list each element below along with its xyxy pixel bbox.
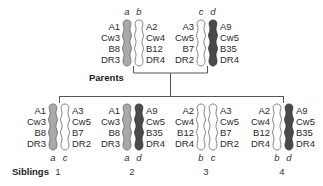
allele: Cw5 — [296, 116, 315, 127]
allele: DR2 — [72, 138, 91, 149]
allele: B7 — [72, 127, 84, 138]
haplotype-label-c: c — [199, 6, 204, 17]
hla-inheritance-diagram: a b A1 Cw3 B8 DR3 A2 Cw4 B12 DR4 c d A3 … — [0, 0, 323, 186]
allele: Cw4 — [175, 116, 194, 127]
allele: Cw5 — [72, 116, 91, 127]
allele: A2 — [182, 105, 194, 116]
chromosome-b — [135, 20, 144, 66]
haplotype-label: b — [198, 152, 203, 163]
allele: Cw3 — [101, 32, 120, 43]
allele: DR4 — [175, 138, 194, 149]
chromosome-a — [49, 104, 58, 150]
sibling-number: 4 — [279, 166, 284, 177]
parent-1: a b A1 Cw3 B8 DR3 A2 Cw4 B12 DR4 — [101, 6, 165, 66]
allele: DR2 — [175, 54, 194, 65]
chromosome-d — [209, 20, 218, 66]
allele: DR4 — [146, 138, 165, 149]
allele: B12 — [146, 43, 163, 54]
haplotype-label-b: b — [136, 6, 141, 17]
allele: DR3 — [101, 138, 120, 149]
haplotype-label: c — [63, 152, 68, 163]
haplotype-label-a: a — [124, 6, 129, 17]
allele: B35 — [220, 43, 237, 54]
allele: Cw4 — [251, 116, 270, 127]
chromosome-c — [61, 104, 70, 150]
parents-label: Parents — [89, 72, 124, 83]
chromosome-c — [197, 20, 206, 66]
allele: A9 — [296, 105, 308, 116]
allele: B35 — [296, 127, 313, 138]
allele: A2 — [146, 21, 158, 32]
sibling-number: 3 — [203, 166, 208, 177]
allele: Cw3 — [101, 116, 120, 127]
chromosome-b — [197, 104, 206, 150]
chromosome-b — [273, 104, 282, 150]
allele: A2 — [258, 105, 270, 116]
allele: DR4 — [220, 54, 239, 65]
haplotype-label: a — [50, 152, 55, 163]
sibling-4: A2 Cw4 B12 DR4 A9 Cw5 B35 DR4 b d 4 — [251, 104, 315, 177]
haplotype-label: c — [211, 152, 216, 163]
allele: Cw5 — [175, 32, 194, 43]
allele: Cw4 — [146, 32, 165, 43]
allele: B7 — [220, 127, 232, 138]
allele: DR2 — [220, 138, 239, 149]
allele: A3 — [220, 105, 232, 116]
sibling-number: 1 — [55, 166, 60, 177]
allele: B8 — [34, 127, 46, 138]
chromosome-d — [135, 104, 144, 150]
chromosome-d — [285, 104, 294, 150]
parent-bracket — [134, 66, 208, 73]
sibling-number: 2 — [129, 166, 134, 177]
allele: B7 — [182, 43, 194, 54]
allele: DR4 — [251, 138, 270, 149]
haplotype-label: d — [286, 152, 292, 163]
allele: B12 — [253, 127, 270, 138]
allele: A1 — [108, 105, 120, 116]
allele: A3 — [182, 21, 194, 32]
allele: A9 — [220, 21, 232, 32]
allele: B8 — [108, 127, 120, 138]
siblings-label: Siblings — [12, 166, 49, 177]
haplotype-label-d: d — [210, 6, 216, 17]
sibling-3: A2 Cw4 B12 DR4 A3 Cw5 B7 DR2 b c 3 — [175, 104, 239, 177]
allele: Cw5 — [220, 116, 239, 127]
chromosome-a — [123, 20, 132, 66]
sibling-2: A1 Cw3 B8 DR3 A9 Cw5 B35 DR4 a d 2 — [101, 104, 165, 177]
haplotype-label: a — [124, 152, 129, 163]
allele: A9 — [146, 105, 158, 116]
allele: Cw3 — [27, 116, 46, 127]
allele: DR3 — [101, 54, 120, 65]
allele: Cw5 — [220, 32, 239, 43]
allele: B12 — [177, 127, 194, 138]
chromosome-a — [123, 104, 132, 150]
allele: B35 — [146, 127, 163, 138]
haplotype-label: d — [136, 152, 142, 163]
allele: DR4 — [146, 54, 165, 65]
allele: B8 — [108, 43, 120, 54]
allele: A1 — [34, 105, 46, 116]
allele: DR4 — [296, 138, 315, 149]
allele: A1 — [108, 21, 120, 32]
allele: A3 — [72, 105, 84, 116]
allele: Cw5 — [146, 116, 165, 127]
haplotype-label: b — [274, 152, 279, 163]
allele: DR3 — [27, 138, 46, 149]
chromosome-c — [209, 104, 218, 150]
parent-2: c d A3 Cw5 B7 DR2 A9 Cw5 B35 DR4 — [175, 6, 239, 66]
